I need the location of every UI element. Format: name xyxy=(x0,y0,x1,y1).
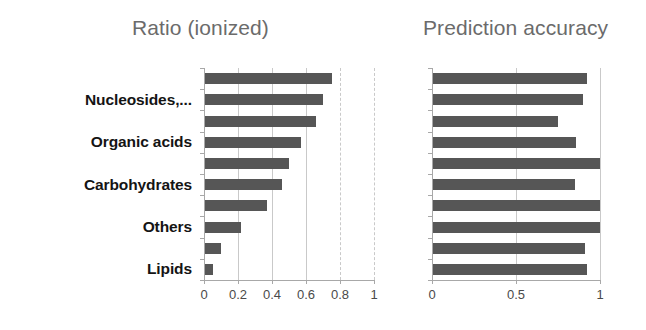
category-axis-tick xyxy=(200,68,204,69)
bar[interactable] xyxy=(432,158,600,169)
bar[interactable] xyxy=(432,94,583,105)
category-label: Others xyxy=(143,218,192,236)
bar-row xyxy=(204,264,374,275)
right-plot-area xyxy=(432,68,600,280)
bar[interactable] xyxy=(432,116,558,127)
category-axis-tick xyxy=(428,216,432,217)
x-axis-tick xyxy=(204,280,205,284)
x-axis-tick xyxy=(374,280,375,284)
bar-row xyxy=(432,179,600,190)
category-axis-tick xyxy=(428,89,432,90)
bar-row xyxy=(204,116,374,127)
category-axis-tick xyxy=(428,68,432,69)
x-axis-tick-label: 1 xyxy=(596,287,603,302)
left-chart-panel: 00.20.40.60.81 xyxy=(204,68,374,300)
category-axis-tick xyxy=(200,174,204,175)
gridline xyxy=(374,68,375,280)
left-category-axis xyxy=(204,68,205,280)
bar-row xyxy=(204,200,374,211)
category-axis-tick xyxy=(428,238,432,239)
bar-row xyxy=(204,179,374,190)
x-axis-tick xyxy=(432,280,433,284)
x-axis-tick-label: 1 xyxy=(370,287,377,302)
category-label: Organic acids xyxy=(91,133,192,151)
left-plot-area xyxy=(204,68,374,280)
x-axis-tick xyxy=(306,280,307,284)
bar-row xyxy=(432,200,600,211)
category-axis-tick xyxy=(200,110,204,111)
right-category-axis xyxy=(432,68,433,280)
bar-row xyxy=(204,73,374,84)
bar[interactable] xyxy=(204,137,301,148)
bar[interactable] xyxy=(432,179,575,190)
x-axis-tick-label: 0.2 xyxy=(229,287,247,302)
category-axis-tick xyxy=(200,238,204,239)
category-axis-tick xyxy=(200,132,204,133)
bar-row xyxy=(432,94,600,105)
bar[interactable] xyxy=(432,73,587,84)
x-axis-tick-label: 0.4 xyxy=(263,287,281,302)
x-axis-tick xyxy=(238,280,239,284)
gridline xyxy=(600,68,601,280)
bar-row xyxy=(432,137,600,148)
category-axis-tick xyxy=(428,132,432,133)
category-axis-labels: Nucleosides,...Organic acidsCarbohydrate… xyxy=(0,68,196,300)
bar[interactable] xyxy=(204,158,289,169)
bar-row xyxy=(432,243,600,254)
category-label: Nucleosides,... xyxy=(85,91,192,109)
x-axis-tick xyxy=(600,280,601,284)
bar[interactable] xyxy=(204,116,316,127)
category-axis-tick xyxy=(428,153,432,154)
category-axis-tick xyxy=(200,195,204,196)
bar[interactable] xyxy=(204,200,267,211)
right-chart-panel: 00.51 xyxy=(432,68,600,300)
category-axis-tick xyxy=(200,153,204,154)
x-axis-tick-label: 0.6 xyxy=(297,287,315,302)
right-chart-title: Prediction accuracy xyxy=(423,16,608,40)
bar[interactable] xyxy=(204,222,241,233)
category-label: Carbohydrates xyxy=(84,176,192,194)
bar[interactable] xyxy=(204,73,332,84)
bar[interactable] xyxy=(204,264,213,275)
left-chart-title: Ratio (ionized) xyxy=(132,16,269,40)
category-axis-tick xyxy=(200,216,204,217)
bar[interactable] xyxy=(204,94,323,105)
x-axis-tick xyxy=(516,280,517,284)
bar-row xyxy=(432,116,600,127)
x-axis-tick xyxy=(340,280,341,284)
category-label: Lipids xyxy=(147,260,192,278)
category-axis-tick xyxy=(428,195,432,196)
category-axis-tick xyxy=(428,259,432,260)
bar-row xyxy=(432,222,600,233)
category-axis-tick xyxy=(200,89,204,90)
bar[interactable] xyxy=(204,243,221,254)
bar-row xyxy=(204,243,374,254)
category-axis-tick xyxy=(200,280,204,281)
category-axis-tick xyxy=(200,259,204,260)
bar[interactable] xyxy=(432,222,600,233)
bar-row xyxy=(204,158,374,169)
bar[interactable] xyxy=(432,243,585,254)
bar[interactable] xyxy=(432,137,576,148)
category-axis-tick xyxy=(428,110,432,111)
bar-row xyxy=(432,158,600,169)
bar[interactable] xyxy=(432,200,600,211)
left-value-axis xyxy=(204,280,374,281)
x-axis-tick xyxy=(272,280,273,284)
bar-row xyxy=(204,94,374,105)
x-axis-tick-label: 0 xyxy=(428,287,435,302)
bar[interactable] xyxy=(204,179,282,190)
bar-row xyxy=(432,264,600,275)
category-axis-tick xyxy=(428,280,432,281)
x-axis-tick-label: 0 xyxy=(200,287,207,302)
bar-row xyxy=(204,137,374,148)
bar-row xyxy=(204,222,374,233)
x-axis-tick-label: 0.8 xyxy=(331,287,349,302)
bar-chart-figure: Ratio (ionized) Prediction accuracy Nucl… xyxy=(0,0,646,330)
bar-row xyxy=(432,73,600,84)
category-axis-tick xyxy=(428,174,432,175)
x-axis-tick-label: 0.5 xyxy=(507,287,525,302)
bar[interactable] xyxy=(432,264,587,275)
